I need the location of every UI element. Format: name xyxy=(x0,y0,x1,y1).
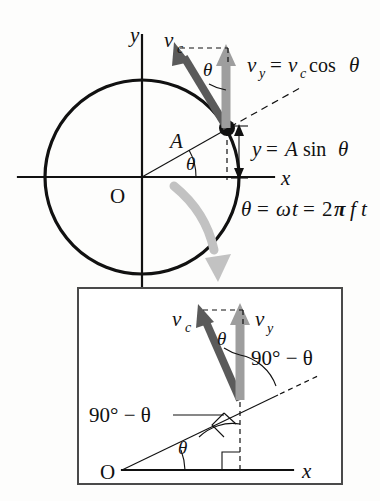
inset-vc-symbol: v xyxy=(172,307,182,331)
theta-eq-f: f xyxy=(350,197,359,221)
inset-vy-subscript: y xyxy=(265,321,274,336)
y-eq-A: A xyxy=(283,137,298,161)
vy-eq-sub1: y xyxy=(257,66,266,81)
radius-label: A xyxy=(168,129,183,153)
figure-canvas: y x O A θ v c θ v y = v c cos xyxy=(0,0,380,501)
origin-label: O xyxy=(110,184,125,208)
y-equation: y = A sin θ xyxy=(250,137,348,161)
y-eq-y: y xyxy=(250,137,262,161)
inset-complement-left-label: 90° − θ xyxy=(89,403,151,427)
radius-extension-dashed xyxy=(230,88,300,127)
inset-vc-subscript: c xyxy=(185,320,192,335)
theta-label-origin: θ xyxy=(186,153,195,174)
inset-theta-top-label: θ xyxy=(217,328,226,349)
inset-vy-symbol: v xyxy=(255,307,265,331)
theta-equation: θ = ω t = 2 π f t xyxy=(241,197,368,221)
x-axis-label: x xyxy=(280,166,291,190)
vy-equation: v y = v c cos θ xyxy=(247,53,359,81)
inset-x-axis-label: x xyxy=(301,459,312,483)
vy-eq-cos: cos xyxy=(309,54,336,76)
vy-eq-v2: v xyxy=(288,53,298,77)
inset-frame xyxy=(78,288,342,484)
vc-label-subscript: c xyxy=(177,41,184,56)
theta-eq-equals2: = xyxy=(303,197,315,221)
theta-eq-omega: ω xyxy=(276,197,291,221)
theta-eq-pi: π xyxy=(334,197,346,221)
theta-label-velocity: θ xyxy=(203,59,212,80)
inset-origin-label: O xyxy=(100,460,115,484)
y-axis-label: y xyxy=(128,23,140,47)
main-diagram: y x O A θ v c θ v y = v c cos xyxy=(18,23,368,290)
radius-line xyxy=(142,129,227,177)
vy-eq-v1: v xyxy=(247,53,257,77)
y-eq-theta: θ xyxy=(338,137,348,161)
vc-label-symbol: v xyxy=(164,28,174,52)
vy-eq-sub2: c xyxy=(300,66,307,81)
theta-eq-two: 2 xyxy=(322,197,333,221)
theta-eq-equals1: = xyxy=(257,197,269,221)
theta-eq-t1: t xyxy=(292,197,299,221)
inset-diagram: v c v y θ 90° − θ 90° − θ θ O x xyxy=(78,288,342,484)
inset-complement-right-label: 90° − θ xyxy=(251,346,313,370)
y-eq-equals: = xyxy=(266,137,278,161)
theta-eq-theta: θ xyxy=(241,197,251,221)
y-eq-sin: sin xyxy=(303,138,326,160)
vy-eq-theta: θ xyxy=(349,53,359,77)
inset-theta-bottom-label: θ xyxy=(178,437,187,458)
physics-figure: y x O A θ v c θ v y = v c cos xyxy=(0,0,380,501)
vy-eq-equals: = xyxy=(270,53,282,77)
theta-eq-t2: t xyxy=(361,197,368,221)
